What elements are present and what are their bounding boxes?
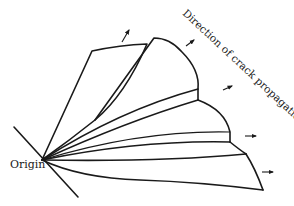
- facet-3-outline: [198, 100, 230, 142]
- arrow-icon: [122, 30, 129, 42]
- crack-fan-diagram: Origin Direction of crack propagation: [0, 0, 294, 206]
- facet-5-outline: [246, 154, 263, 190]
- facet-5-bottom: [42, 160, 263, 190]
- arrow-icon: [223, 86, 232, 90]
- direction-label: Direction of crack propagation: [181, 7, 294, 128]
- facet-4-outline: [230, 142, 246, 154]
- arrow-icon: [186, 40, 194, 46]
- origin-label: Origin: [10, 158, 45, 171]
- facet-2: [95, 38, 198, 120]
- facet-1: [42, 44, 147, 160]
